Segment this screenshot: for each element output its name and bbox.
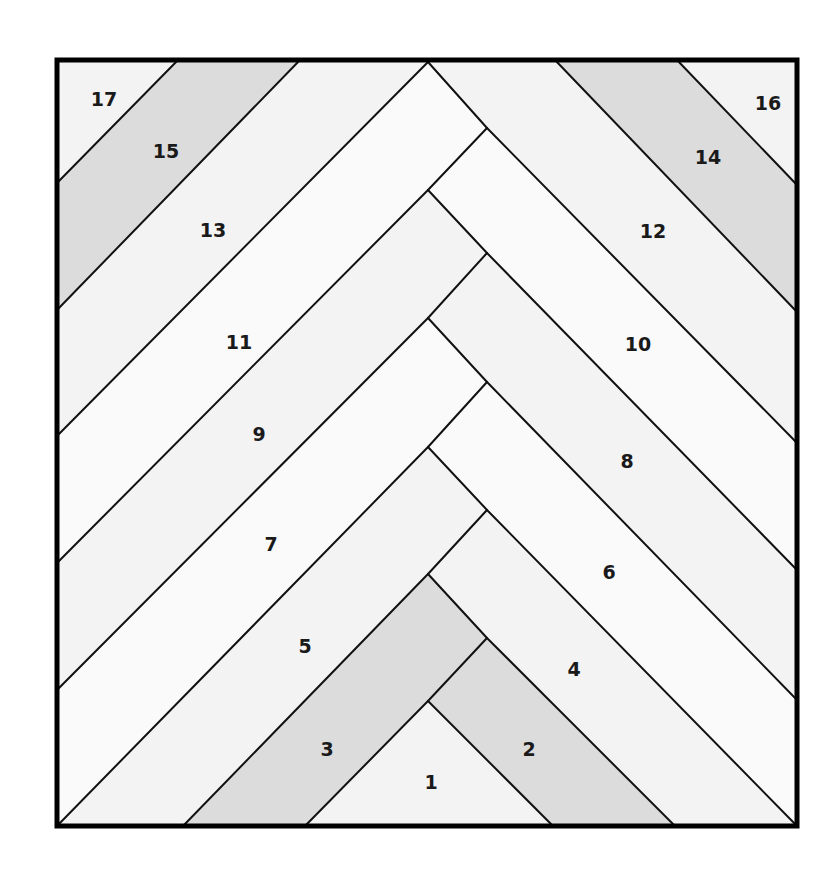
piece-label-9: 9 xyxy=(252,423,265,445)
piece-label-11: 11 xyxy=(226,331,252,353)
piece-label-6: 6 xyxy=(602,561,615,583)
piece-label-4: 4 xyxy=(567,658,580,680)
piece-label-17: 17 xyxy=(91,88,117,110)
piece-label-8: 8 xyxy=(620,450,633,472)
piece-label-12: 12 xyxy=(640,220,666,242)
piece-label-15: 15 xyxy=(153,140,179,162)
piece-label-14: 14 xyxy=(695,146,721,168)
piece-label-5: 5 xyxy=(298,635,311,657)
piece-label-7: 7 xyxy=(264,533,277,555)
piece-label-16: 16 xyxy=(755,92,781,114)
piece-label-10: 10 xyxy=(625,333,651,355)
piece-label-3: 3 xyxy=(320,738,333,760)
piece-label-13: 13 xyxy=(200,219,226,241)
herringbone-block-diagram: 1234567891011121314151617 xyxy=(0,0,836,883)
piece-label-2: 2 xyxy=(522,738,535,760)
piece-label-1: 1 xyxy=(424,771,437,793)
pieces-group xyxy=(57,60,797,826)
